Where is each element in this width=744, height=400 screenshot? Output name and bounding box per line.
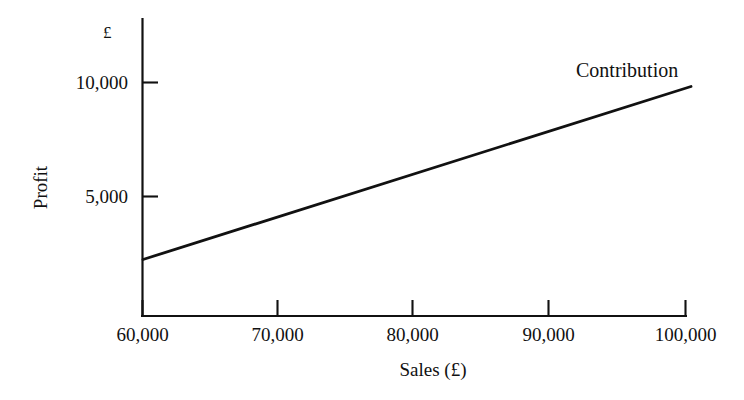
- x-tick-label-80000: 80,000: [357, 325, 468, 344]
- x-tick-label-100000: 100,000: [627, 325, 744, 344]
- y-axis-unit-label: £: [103, 24, 112, 41]
- x-tick-label-60000: 60,000: [87, 325, 198, 344]
- x-tick-label-90000: 90,000: [493, 325, 604, 344]
- y-axis-title: Profit: [31, 142, 50, 234]
- y-tick-label-10000: 10,000: [10, 73, 128, 92]
- contribution-line: [143, 87, 691, 260]
- chart-figure: £ 10,000 5,000 60,000 70,000 80,000 90,0…: [0, 0, 744, 400]
- x-axis-title: Sales (£): [372, 360, 494, 379]
- y-tick-label-5000: 5,000: [10, 187, 128, 206]
- x-tick-label-70000: 70,000: [222, 325, 333, 344]
- contribution-series-label: Contribution: [576, 60, 678, 80]
